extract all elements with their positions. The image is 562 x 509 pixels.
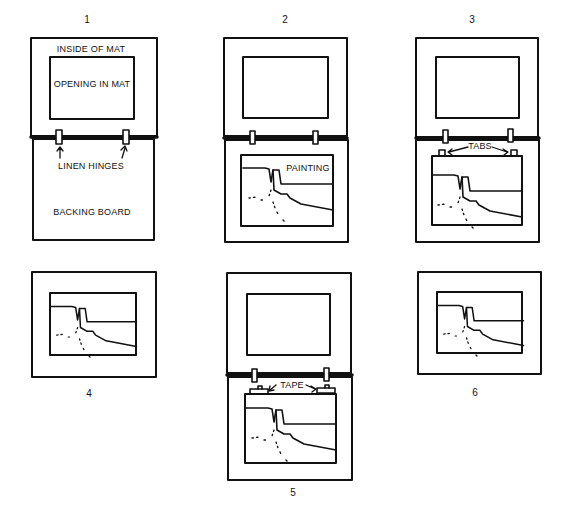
step-4-diagram	[32, 272, 156, 377]
mat-opening-with-painting	[50, 293, 136, 355]
arrow-icon	[269, 385, 276, 391]
step-6-diagram	[418, 272, 541, 374]
step-number-3: 3	[469, 14, 475, 25]
step-number-4: 4	[86, 388, 92, 399]
tape-right	[317, 388, 335, 393]
step-number-1: 1	[84, 14, 90, 25]
linen-hinge-left	[443, 130, 448, 143]
tape-label: TAPE	[280, 380, 304, 390]
mat-opening-with-painting	[437, 292, 522, 353]
step-number-6: 6	[472, 387, 478, 398]
mat-hinging-diagram	[0, 0, 562, 509]
opening-in-mat-label: OPENING IN MAT	[54, 79, 131, 89]
linen-hinge-right	[324, 368, 329, 381]
backing-board	[33, 139, 154, 240]
mat-board	[227, 273, 351, 373]
linen-hinge-left	[56, 130, 62, 144]
mat-opening	[243, 57, 328, 118]
step-2-diagram	[224, 38, 348, 242]
linen-hinge-right	[123, 130, 129, 144]
linen-hinge-left	[250, 131, 255, 144]
arrow-icon	[492, 147, 508, 155]
backing-board-label: BACKING BOARD	[53, 207, 131, 217]
linen-hinge-left	[252, 369, 257, 382]
arrow-icon	[306, 385, 316, 392]
painting	[245, 394, 336, 463]
mat-opening	[436, 57, 519, 118]
arrow-icon	[121, 146, 127, 158]
linen-hinge-right	[313, 131, 318, 144]
step-number-5: 5	[290, 487, 296, 498]
step-3-diagram	[416, 38, 539, 242]
linen-hinges-label: LINEN HINGES	[58, 161, 124, 171]
mat-opening	[247, 294, 330, 355]
tabs-label: TABS	[468, 141, 492, 151]
painting-label: PAINTING	[286, 163, 329, 173]
arrow-icon	[57, 147, 63, 158]
linen-hinge-right	[508, 129, 513, 142]
step-number-2: 2	[282, 14, 288, 25]
arrow-icon	[448, 147, 468, 155]
inside-of-mat-label: INSIDE OF MAT	[57, 44, 125, 54]
step-5-diagram	[227, 273, 352, 480]
